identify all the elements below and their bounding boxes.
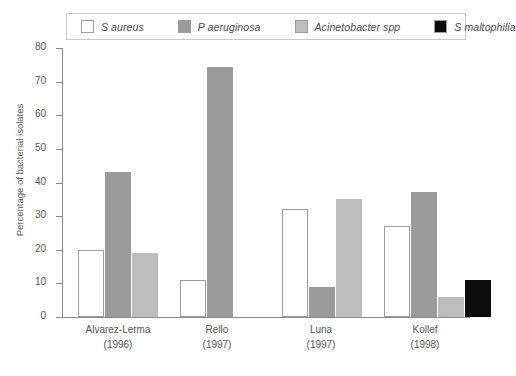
y-tick-80: 80 — [56, 48, 62, 49]
bar-rello-p-aeruginosa — [207, 67, 233, 317]
legend-item-acinetobacter-spp: Acinetobacter spp — [295, 14, 401, 39]
y-tick-label-10: 10 — [35, 276, 46, 287]
legend-swatch-p-aeruginosa — [178, 20, 191, 33]
bar-alvarez-lerma-acinetobacter-spp — [132, 253, 158, 317]
y-axis-line — [62, 48, 63, 318]
y-tick-40: 40 — [56, 183, 62, 184]
bar-luna-p-aeruginosa — [309, 287, 335, 317]
bar-kollef-s-maltophilia — [465, 280, 491, 317]
legend-swatch-s-aureus — [81, 20, 94, 33]
bar-rello-s-aureus — [180, 280, 206, 317]
x-tick-label-rello-name: Rello — [157, 322, 277, 337]
x-tick-label-luna-name: Luna — [261, 322, 381, 337]
legend-label-acinetobacter-spp: Acinetobacter spp — [315, 21, 401, 33]
x-tick-rello: Rello (1997) — [157, 322, 277, 352]
x-tick-kollef: Kollef (1998) — [365, 322, 485, 352]
x-axis-line — [62, 317, 470, 318]
bar-alvarez-lerma-p-aeruginosa — [105, 172, 131, 317]
y-tick-10: 10 — [56, 283, 62, 284]
legend-swatch-s-maltophilia — [434, 20, 447, 33]
y-tick-label-50: 50 — [35, 142, 46, 153]
y-tick-60: 60 — [56, 115, 62, 116]
legend-label-p-aeruginosa: P aeruginosa — [198, 21, 261, 33]
legend-item-s-aureus: S aureus — [81, 14, 144, 39]
y-tick-label-20: 20 — [35, 243, 46, 254]
y-tick-20: 20 — [56, 250, 62, 251]
plot-area: 80 70 60 50 40 30 20 10 0 — [62, 48, 470, 318]
y-tick-label-30: 30 — [35, 209, 46, 220]
y-tick-30: 30 — [56, 216, 62, 217]
legend-swatch-acinetobacter-spp — [295, 20, 308, 33]
bar-kollef-acinetobacter-spp — [438, 297, 464, 317]
legend-label-s-maltophilia: S maltophilia — [454, 21, 515, 33]
bar-kollef-s-aureus — [384, 226, 410, 317]
y-tick-label-40: 40 — [35, 176, 46, 187]
y-tick-50: 50 — [56, 149, 62, 150]
legend-item-s-maltophilia: S maltophilia — [434, 14, 515, 39]
bar-kollef-p-aeruginosa — [411, 192, 437, 317]
bar-alvarez-lerma-s-aureus — [78, 250, 104, 318]
y-tick-label-60: 60 — [35, 108, 46, 119]
x-tick-label-luna-year: (1997) — [261, 337, 381, 352]
x-tick-label-kollef-name: Kollef — [365, 322, 485, 337]
bar-luna-acinetobacter-spp — [336, 199, 362, 317]
y-tick-label-70: 70 — [35, 75, 46, 86]
legend-label-s-aureus: S aureus — [101, 21, 144, 33]
y-tick-0: 0 — [56, 317, 62, 318]
x-tick-label-kollef-year: (1998) — [365, 337, 485, 352]
bar-luna-s-aureus — [282, 209, 308, 317]
legend-item-p-aeruginosa: P aeruginosa — [178, 14, 261, 39]
y-tick-label-0: 0 — [40, 310, 46, 321]
y-axis-title: Percentage of bacterial isolates — [14, 30, 28, 310]
chart-legend: S aureus P aeruginosa Acinetobacter spp … — [66, 13, 466, 40]
x-tick-label-rello-year: (1997) — [157, 337, 277, 352]
x-tick-luna: Luna (1997) — [261, 322, 381, 352]
y-tick-70: 70 — [56, 82, 62, 83]
y-tick-label-80: 80 — [35, 41, 46, 52]
